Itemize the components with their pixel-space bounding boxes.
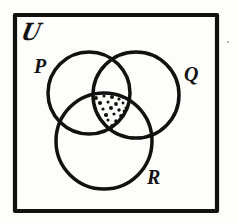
venn-diagram-figure: U P Q R xyxy=(0,0,238,223)
set-label-q: Q xyxy=(184,64,198,84)
set-circle-q xyxy=(93,52,179,138)
set-label-p: P xyxy=(34,56,46,76)
set-label-r: R xyxy=(147,167,160,187)
set-circle-r xyxy=(56,93,152,189)
universe-frame xyxy=(15,15,217,211)
scan-speck-artifact xyxy=(227,41,229,43)
